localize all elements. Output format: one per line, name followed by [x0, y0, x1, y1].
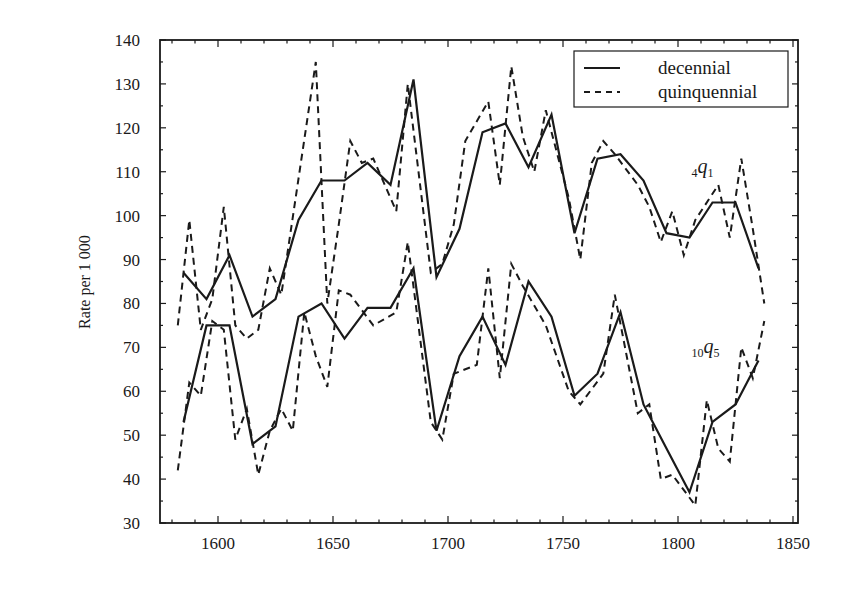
- y-tick-label: 110: [115, 163, 140, 182]
- line-chart: 30405060708090100110120130140 1600165017…: [0, 0, 848, 598]
- series-decennial-4q1: [184, 80, 759, 317]
- x-tick-label: 1650: [316, 534, 350, 553]
- y-tick-label: 100: [115, 207, 141, 226]
- y-tick-label: 90: [123, 251, 140, 270]
- series-decennial-10q5: [184, 268, 759, 492]
- y-tick-label: 40: [123, 470, 140, 489]
- legend-label-decennial: decennial: [658, 57, 731, 78]
- y-tick-label: 50: [123, 426, 140, 445]
- y-tick-label: 80: [123, 294, 140, 313]
- curve-annotations: 4q110q5: [692, 155, 720, 360]
- x-tick-label: 1700: [431, 534, 465, 553]
- legend-label-quinquennial: quinquennial: [658, 81, 757, 102]
- y-tick-label: 130: [115, 75, 141, 94]
- curve-label-4q1: 4q1: [692, 155, 714, 180]
- x-tick-label: 1600: [201, 534, 235, 553]
- x-tick-label: 1850: [776, 534, 810, 553]
- y-tick-label: 140: [115, 31, 141, 50]
- series-layer: [178, 62, 765, 505]
- curve-label-10q5: 10q5: [692, 335, 720, 360]
- y-tick-label: 60: [123, 382, 140, 401]
- y-tick-label: 70: [123, 338, 140, 357]
- x-tick-label: 1750: [546, 534, 580, 553]
- y-axis-title: Rate per 1 000: [76, 235, 94, 329]
- y-tick-label: 30: [123, 514, 140, 533]
- y-tick-label: 120: [115, 119, 141, 138]
- x-tick-label: 1800: [661, 534, 695, 553]
- legend: decennial quinquennial: [574, 51, 788, 107]
